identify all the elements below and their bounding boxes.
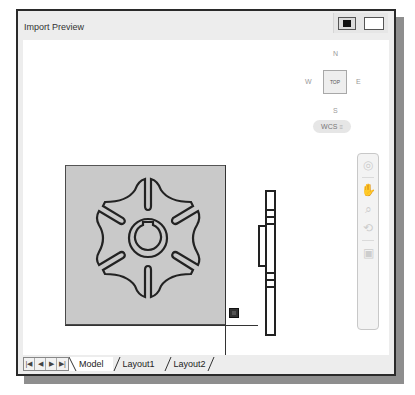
previous-tab-button[interactable]: ◀ [35, 358, 46, 370]
tab-layout1[interactable]: Layout1 [113, 357, 164, 371]
layout-tab-bar: |◀ ◀ ▶ ▶| Model Layout1 Layout2 [23, 355, 389, 371]
keyed-bore [135, 222, 161, 250]
dark-background-button[interactable] [338, 17, 356, 30]
tab-label: Model [79, 359, 104, 369]
empty-square-icon [368, 19, 380, 27]
light-background-button[interactable] [364, 17, 384, 30]
viewport-divider-horizontal [65, 325, 258, 326]
ucs-icon [229, 308, 239, 318]
next-tab-button[interactable]: ▶ [46, 358, 57, 370]
geneva-wheel-front-view [97, 179, 199, 297]
tab-label: Layout1 [123, 359, 155, 369]
tab-navigation: |◀ ◀ ▶ ▶| [23, 357, 69, 371]
tab-edge [164, 357, 172, 371]
tab-label: Layout2 [174, 359, 206, 369]
window-title: Import Preview [24, 22, 84, 32]
drawing-geometry [23, 40, 389, 355]
viewport-divider-vertical [225, 165, 226, 355]
drawing-canvas[interactable]: N W TOP E S WCS ≡ ◎ ✋ ⌕ ⟲ ▣ [23, 40, 389, 355]
filled-square-icon [343, 20, 351, 27]
import-preview-window: Import Preview N W TOP E S WCS ≡ ◎ ✋ ⌕ ⟲… [16, 9, 396, 376]
tab-edge [69, 357, 77, 371]
side-view-body [266, 191, 275, 335]
tab-layout2[interactable]: Layout2 [164, 357, 215, 371]
tab-model[interactable]: Model [69, 357, 113, 371]
first-tab-button[interactable]: |◀ [24, 358, 35, 370]
side-view-hub [259, 226, 266, 266]
titlebar-buttons [333, 13, 388, 33]
side-view-section [259, 191, 275, 335]
tab-edge [113, 357, 121, 371]
tab-edge [207, 357, 215, 371]
geneva-wheel-outline [97, 179, 199, 297]
last-tab-button[interactable]: ▶| [57, 358, 68, 370]
